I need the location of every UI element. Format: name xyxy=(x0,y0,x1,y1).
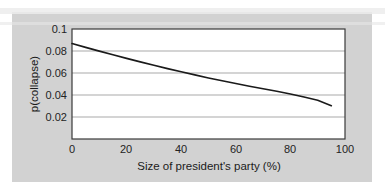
x-tick-label: 0 xyxy=(69,143,75,155)
y-tick-label: 0.04 xyxy=(46,89,67,101)
plot-area xyxy=(72,29,345,139)
x-axis-tick-labels: 0 20 40 60 80 100 xyxy=(69,143,354,155)
x-tick-label: 20 xyxy=(120,143,132,155)
y-tick-label: 0.1 xyxy=(52,23,67,35)
y-axis-title: p(collapse) xyxy=(28,56,40,112)
y-tick-label: 0.08 xyxy=(46,45,67,57)
x-tick-label: 80 xyxy=(284,143,296,155)
y-tick-label: 0.02 xyxy=(46,111,67,123)
figure-container: 0.1 0.08 0.06 0.04 0.02 0 20 40 60 80 10… xyxy=(0,0,385,193)
x-tick-label: 40 xyxy=(175,143,187,155)
x-tick-label: 100 xyxy=(336,143,354,155)
y-tick-label: 0.06 xyxy=(46,67,67,79)
line-chart: 0.1 0.08 0.06 0.04 0.02 0 20 40 60 80 10… xyxy=(0,0,385,193)
y-axis-tick-labels: 0.1 0.08 0.06 0.04 0.02 xyxy=(46,23,67,123)
x-axis-title: Size of president's party (%) xyxy=(137,160,281,172)
x-tick-label: 60 xyxy=(230,143,242,155)
